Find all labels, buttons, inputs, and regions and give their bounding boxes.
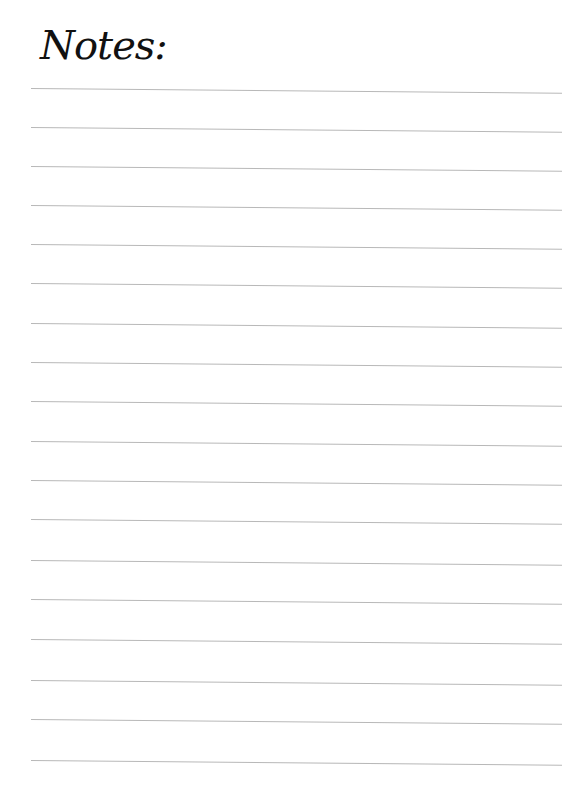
ruled-line xyxy=(31,560,562,566)
ruled-line xyxy=(31,362,562,368)
ruled-line xyxy=(31,205,562,211)
ruled-line xyxy=(31,599,562,605)
ruled-line xyxy=(31,283,562,289)
ruled-line xyxy=(31,719,562,725)
ruled-line xyxy=(31,441,562,447)
ruled-line xyxy=(31,401,562,407)
ruled-line xyxy=(31,519,562,525)
ruled-line xyxy=(31,323,562,329)
ruled-line xyxy=(31,760,562,766)
ruled-line xyxy=(31,680,562,686)
ruled-line xyxy=(31,480,562,486)
ruled-line xyxy=(31,166,562,172)
ruled-line xyxy=(31,127,562,133)
ruled-line xyxy=(31,88,562,94)
page-title: Notes: xyxy=(40,22,167,68)
ruled-line xyxy=(31,244,562,250)
ruled-line xyxy=(31,639,562,645)
